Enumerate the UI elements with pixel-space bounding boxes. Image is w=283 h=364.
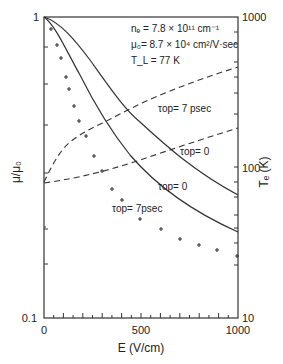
y2-tick-10: 10 (242, 312, 254, 324)
curve-te-tau7 (44, 67, 238, 182)
x-tick-0: 0 (41, 324, 47, 336)
y-tick-0-1: 0.1 (22, 312, 37, 324)
label-te-tau7: τop= 7 psec (158, 103, 211, 114)
annotation-mu0: μ₀= 8.7 × 10⁴ cm²/V·sec (131, 39, 238, 50)
x-axis-title: E (V/cm) (118, 341, 165, 355)
x-axis-ticks (54, 313, 229, 318)
annotation-ne: nₑ = 7.8 × 10¹¹ cm⁻¹ (131, 23, 220, 34)
x-tick-1000: 1000 (226, 324, 250, 336)
y-axis-right-title: Tₑ (K) (257, 156, 271, 187)
annotation-tl: T_L = 77 K (131, 55, 180, 66)
y2-tick-1000: 1000 (242, 11, 266, 23)
label-te-tau0: τop= 0 (180, 146, 210, 157)
chart: 1 0.1 1000 100 10 0 500 1000 E (V/cm) μ/… (0, 0, 283, 364)
x-tick-500: 500 (132, 324, 150, 336)
label-mu-tau0: τop= 0 (158, 181, 188, 192)
label-mu-tau7: τop= 7psec (112, 203, 162, 214)
y-tick-1: 1 (33, 11, 39, 23)
y-axis-left-title: μ/μ₀ (9, 161, 23, 183)
